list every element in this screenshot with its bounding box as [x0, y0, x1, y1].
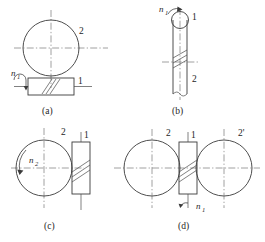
engineering-drawing-canvas: 2 1 n 1 (a) — [0, 0, 265, 242]
figure-b-speed-subscript: 1 — [165, 9, 168, 16]
figure-c-speed-subscript: 2 — [35, 160, 39, 167]
figure-sheet: 2 1 n 1 (a) — [0, 0, 265, 242]
figure-d-caption: (d) — [178, 221, 189, 232]
figure-b-break-line — [173, 92, 187, 96]
figure-c-wheel-label: 2 — [61, 127, 66, 137]
figure-c-speed-label: n — [29, 155, 34, 165]
figure-b-caption: (b) — [172, 106, 183, 117]
figure-b-wheel-label: 2 — [192, 74, 197, 84]
figure-a-worm-threads — [42, 79, 60, 94]
figure-a-speed-label: n — [11, 68, 16, 78]
figure-a-worm-label: 1 — [78, 76, 83, 86]
figure-d-left-wheel-label: 2 — [166, 128, 171, 138]
figure-c-rotation-arrow — [17, 150, 26, 175]
figure-a-caption: (a) — [42, 106, 53, 117]
figure-a-wheel-label: 2 — [79, 26, 84, 36]
figure-d-rotation-arrow — [179, 203, 188, 208]
figure-d: 2 1 2' n 1 (d) — [114, 128, 260, 232]
figure-d-speed-subscript: 1 — [202, 206, 205, 213]
figure-c: 2 1 n 2 (c) — [11, 127, 90, 232]
figure-b-worm-label: 1 — [192, 12, 197, 22]
figure-b-speed-label: n — [159, 4, 164, 14]
figure-a: 2 1 n 1 (a) — [11, 10, 108, 117]
figure-c-worm-threads — [72, 160, 90, 182]
figure-d-worm-threads — [179, 160, 197, 182]
figure-d-speed-label: n — [196, 201, 201, 211]
figure-b: n 1 1 2 (b) — [159, 4, 199, 117]
figure-c-caption: (c) — [44, 221, 55, 232]
figure-d-right-wheel-label: 2' — [238, 128, 245, 138]
figure-c-worm-label: 1 — [84, 130, 89, 140]
figure-a-speed-subscript: 1 — [17, 73, 20, 80]
figure-d-worm-label: 1 — [191, 130, 196, 140]
